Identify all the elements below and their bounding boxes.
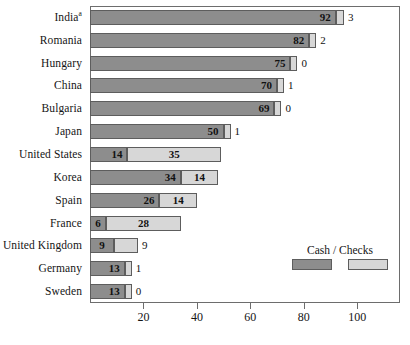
bar-segment-cash: 34: [90, 170, 181, 185]
x-axis-tick-label: 40: [191, 310, 203, 325]
bar-value-checks: 14: [160, 194, 195, 207]
bar-value-checks: 2: [315, 34, 326, 47]
bar-segment-checks: 9: [114, 238, 138, 253]
bar-row: 131: [90, 261, 132, 276]
category-label-text: Spain: [55, 194, 82, 206]
chart-legend: Cash / Checks: [288, 244, 392, 270]
bar-row: 750: [90, 56, 297, 71]
x-axis-tick-mark: [143, 303, 144, 309]
legend-swatch-checks: [348, 259, 388, 270]
category-label: United Kingdom: [0, 239, 82, 251]
bar-row: 501: [90, 124, 231, 139]
bar-value-checks: 3: [343, 11, 354, 24]
bar-segment-checks: 0: [125, 284, 132, 299]
x-axis-tick-mark: [357, 303, 358, 309]
category-label-text: Romania: [40, 34, 82, 46]
bar-value-checks: 35: [128, 148, 220, 161]
bar-segment-cash: 69: [90, 101, 274, 116]
bar-row: 99: [90, 238, 138, 253]
category-label: Korea: [0, 171, 82, 183]
category-label-text: India: [54, 11, 78, 23]
bar-row: 1435: [90, 147, 221, 162]
bar-segment-cash: 92: [90, 10, 336, 25]
category-label-text: United Kingdom: [3, 239, 82, 251]
bar-segment-checks: 0: [274, 101, 281, 116]
bar-segment-cash: 6: [90, 216, 106, 231]
bar-row: 923: [90, 10, 344, 25]
bar-chart: IndiaaRomaniaHungaryChinaBulgariaJapanUn…: [0, 0, 410, 345]
bar-segment-checks: 14: [181, 170, 218, 185]
bar-value-cash: 13: [109, 285, 124, 298]
bar-segment-checks: 28: [106, 216, 181, 231]
category-label: Indiaa: [0, 11, 82, 23]
category-label-text: Sweden: [45, 285, 82, 297]
x-axis-tick-label: 60: [244, 310, 256, 325]
category-footnote-marker: a: [79, 9, 82, 18]
bar-segment-cash: 82: [90, 33, 309, 48]
bar-segment-checks: 14: [159, 193, 196, 208]
bar-value-checks: 0: [296, 57, 307, 70]
bar-segment-cash: 9: [90, 238, 114, 253]
bar-row: 701: [90, 78, 284, 93]
legend-swatch-cash: [292, 259, 332, 270]
category-label: Bulgaria: [0, 102, 82, 114]
category-label-text: China: [54, 79, 82, 91]
category-label: Japan: [0, 125, 82, 137]
category-label: China: [0, 79, 82, 91]
category-label-text: France: [50, 217, 82, 229]
x-axis: 20406080100: [90, 303, 400, 343]
bar-segment-checks: 35: [127, 147, 221, 162]
category-label: United States: [0, 148, 82, 160]
bar-segment-checks: 1: [224, 124, 231, 139]
category-label-text: Bulgaria: [42, 102, 82, 114]
legend-swatches: [288, 259, 392, 270]
bar-segment-cash: 13: [90, 261, 125, 276]
bar-value-cash: 34: [165, 171, 180, 184]
bar-segment-cash: 26: [90, 193, 159, 208]
bar-value-cash: 92: [320, 11, 335, 24]
bar-value-cash: 9: [91, 239, 113, 252]
bar-segment-cash: 70: [90, 78, 277, 93]
bar-row: 690: [90, 101, 281, 116]
bar-value-cash: 82: [293, 34, 308, 47]
bar-value-checks: 28: [107, 217, 180, 230]
bar-value-checks: 0: [280, 102, 291, 115]
category-label: Germany: [0, 262, 82, 274]
legend-title: Cash / Checks: [288, 244, 392, 257]
category-axis-labels: IndiaaRomaniaHungaryChinaBulgariaJapanUn…: [0, 6, 86, 303]
x-axis-tick-label: 20: [137, 310, 149, 325]
bar-row: 3414: [90, 170, 218, 185]
bar-segment-checks: 3: [336, 10, 344, 25]
bar-value-cash: 6: [91, 217, 105, 230]
bar-segment-checks: 1: [277, 78, 284, 93]
bar-segment-cash: 13: [90, 284, 125, 299]
bar-value-cash: 50: [208, 125, 223, 138]
bar-segment-checks: 2: [309, 33, 316, 48]
category-label-text: Hungary: [41, 57, 82, 69]
bar-segment-cash: 50: [90, 124, 224, 139]
bar-value-checks: 9: [137, 239, 148, 252]
bar-value-cash: 14: [111, 148, 126, 161]
bar-segment-cash: 75: [90, 56, 290, 71]
bar-value-cash: 13: [109, 262, 124, 275]
bar-value-checks: 1: [283, 79, 294, 92]
x-axis-tick-label: 80: [298, 310, 310, 325]
bar-value-checks: 1: [131, 262, 142, 275]
category-label: Sweden: [0, 285, 82, 297]
x-axis-tick-mark: [250, 303, 251, 309]
category-label: Romania: [0, 34, 82, 46]
bar-row: 2614: [90, 193, 197, 208]
bar-row: 822: [90, 33, 316, 48]
x-axis-tick-mark: [304, 303, 305, 309]
category-label-text: Korea: [53, 171, 82, 183]
bar-value-checks: 14: [182, 171, 217, 184]
bar-segment-checks: 0: [290, 56, 297, 71]
bar-row: 628: [90, 216, 181, 231]
x-axis-tick-label: 100: [348, 310, 366, 325]
bar-value-cash: 70: [261, 79, 276, 92]
category-label: Spain: [0, 194, 82, 206]
bar-value-checks: 1: [230, 125, 241, 138]
bar-value-cash: 75: [274, 57, 289, 70]
category-label-text: Japan: [55, 125, 82, 137]
bar-segment-cash: 14: [90, 147, 127, 162]
